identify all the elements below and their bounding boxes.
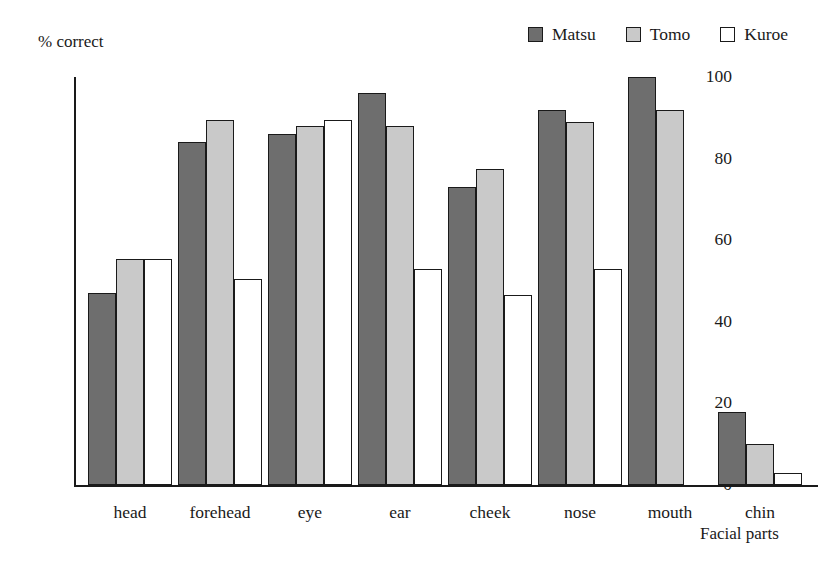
bar-group-chin: chin — [718, 77, 802, 485]
chart-legend: Matsu Tomo Kuroe — [528, 26, 788, 44]
bar-mouth-matsu — [628, 77, 656, 485]
bar-eye-kuroe — [324, 120, 352, 485]
legend-label-kuroe: Kuroe — [744, 26, 788, 44]
y-axis-line — [74, 77, 76, 486]
y-axis-title: % correct — [38, 32, 104, 52]
bar-cheek-tomo — [476, 169, 504, 485]
bar-chin-matsu — [718, 412, 746, 485]
bar-group-forehead: forehead — [178, 77, 262, 485]
bar-chart-figure: Matsu Tomo Kuroe % correct Facial parts … — [0, 0, 832, 570]
bar-group-head: head — [88, 77, 172, 485]
bar-mouth-tomo — [656, 110, 684, 485]
bar-eye-matsu — [268, 134, 296, 485]
x-tick-label-chin: chin — [700, 504, 820, 522]
legend-swatch-kuroe — [720, 27, 735, 42]
bar-group-eye: eye — [268, 77, 352, 485]
bar-group-cheek: cheek — [448, 77, 532, 485]
bar-head-kuroe — [144, 259, 172, 485]
bar-forehead-tomo — [206, 120, 234, 485]
bar-head-matsu — [88, 293, 116, 485]
bar-ear-matsu — [358, 93, 386, 485]
bar-ear-tomo — [386, 126, 414, 485]
bar-nose-tomo — [566, 122, 594, 485]
legend-label-matsu: Matsu — [552, 26, 596, 44]
bar-group-nose: nose — [538, 77, 622, 485]
legend-item-matsu: Matsu — [528, 26, 596, 44]
bar-cheek-matsu — [448, 187, 476, 485]
bar-group-ear: ear — [358, 77, 442, 485]
legend-item-tomo: Tomo — [626, 26, 691, 44]
bar-ear-kuroe — [414, 269, 442, 485]
x-axis-line — [74, 485, 818, 487]
legend-swatch-matsu — [528, 27, 543, 42]
bar-forehead-kuroe — [234, 279, 262, 485]
legend-swatch-tomo — [626, 27, 641, 42]
bar-group-mouth: mouth — [628, 77, 712, 485]
bar-chin-tomo — [746, 444, 774, 485]
bar-cheek-kuroe — [504, 295, 532, 485]
bar-nose-kuroe — [594, 269, 622, 485]
bar-nose-matsu — [538, 110, 566, 485]
plot-area: 020406080100 headforeheadeyeearcheeknose… — [74, 77, 818, 485]
legend-item-kuroe: Kuroe — [720, 26, 788, 44]
bar-eye-tomo — [296, 126, 324, 485]
bar-forehead-matsu — [178, 142, 206, 485]
legend-label-tomo: Tomo — [650, 26, 691, 44]
bar-head-tomo — [116, 259, 144, 485]
bar-chin-kuroe — [774, 473, 802, 485]
x-axis-title: Facial parts — [700, 524, 779, 544]
